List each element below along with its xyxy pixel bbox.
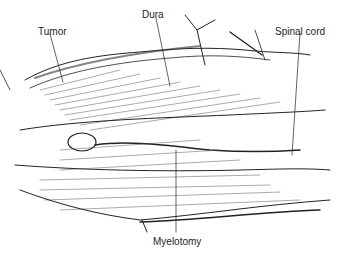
spinal-cord-myelotomy-illustration: Tumor Dura Spinal cord Myelotomy (0, 0, 337, 263)
label-myelotomy: Myelotomy (153, 236, 201, 247)
illustration-drawing (0, 0, 337, 263)
label-spinal-cord: Spinal cord (275, 26, 325, 37)
label-dura: Dura (142, 9, 164, 20)
label-tumor: Tumor (38, 26, 67, 37)
